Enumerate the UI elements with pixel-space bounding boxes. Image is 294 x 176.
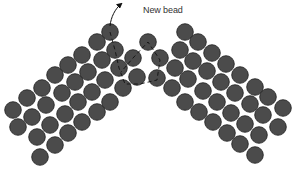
bead xyxy=(275,100,292,117)
bead xyxy=(29,129,46,146)
bead xyxy=(34,80,51,97)
bead xyxy=(251,127,268,144)
bead xyxy=(80,64,97,81)
bead xyxy=(219,125,236,142)
bead xyxy=(227,85,244,102)
bead xyxy=(223,105,240,122)
bead-diagram xyxy=(0,0,294,176)
bead xyxy=(60,57,77,74)
right-arm-beads xyxy=(164,24,292,164)
bead xyxy=(60,125,77,142)
bead xyxy=(177,94,194,111)
bead xyxy=(180,71,197,88)
bead xyxy=(107,42,124,59)
bead xyxy=(255,107,272,124)
bead xyxy=(218,56,235,73)
bead xyxy=(32,149,49,166)
bead xyxy=(57,106,74,123)
new-bead-arrow-icon xyxy=(110,4,121,26)
bead xyxy=(70,94,87,111)
bead xyxy=(204,45,221,62)
bead xyxy=(260,89,277,106)
bead xyxy=(129,69,146,86)
bead xyxy=(115,80,132,97)
bead xyxy=(102,94,119,111)
bead xyxy=(19,90,36,107)
bead xyxy=(149,70,166,87)
bead xyxy=(209,94,226,111)
bead xyxy=(84,84,101,101)
bead xyxy=(24,109,41,126)
bead xyxy=(42,117,59,134)
bead xyxy=(5,102,22,119)
bead xyxy=(199,63,216,80)
bead xyxy=(205,114,222,131)
bead xyxy=(38,97,55,114)
bead xyxy=(10,119,27,136)
bead xyxy=(237,116,254,133)
bead xyxy=(54,85,71,102)
bead xyxy=(74,114,91,131)
left-arm-beads xyxy=(5,24,146,166)
bead xyxy=(167,60,184,77)
bead xyxy=(190,34,207,51)
bead xyxy=(270,119,287,136)
bead xyxy=(172,42,189,59)
bead xyxy=(47,137,64,154)
bead xyxy=(164,80,181,97)
bead xyxy=(191,104,208,121)
bead xyxy=(185,53,202,70)
bead xyxy=(97,72,114,89)
bead xyxy=(247,147,264,164)
bead xyxy=(232,136,249,153)
bead xyxy=(152,50,169,67)
bead xyxy=(242,96,259,113)
bead xyxy=(74,47,91,64)
bead xyxy=(232,67,249,84)
bead xyxy=(213,74,230,91)
new-bead-label: New bead xyxy=(143,5,183,15)
bead xyxy=(195,83,212,100)
